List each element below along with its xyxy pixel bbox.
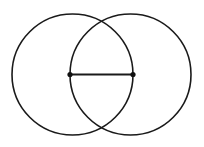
right-endpoint-dot — [130, 72, 135, 77]
figure-canvas — [0, 0, 204, 147]
geometry-diagram — [0, 0, 204, 147]
left-endpoint-dot — [67, 72, 72, 77]
